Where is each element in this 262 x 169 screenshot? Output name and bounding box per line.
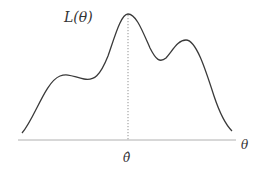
x-axis-label: θ [241, 138, 249, 152]
y-label: L(θ) [63, 9, 93, 25]
theta-hat-label: θ̂ [123, 151, 131, 165]
likelihood-curve [22, 14, 232, 133]
likelihood-diagram: L(θ) θ θ̂ [0, 0, 262, 169]
